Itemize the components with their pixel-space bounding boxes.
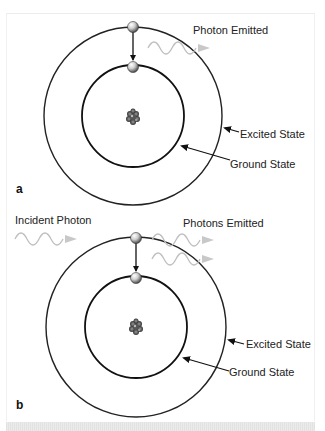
ground-pointer-arrow xyxy=(184,358,229,371)
electron-icon xyxy=(128,62,139,73)
nucleus-icon xyxy=(126,109,140,126)
photon-wave-icon xyxy=(148,42,210,54)
emitted-photon-wave-icon xyxy=(152,253,214,265)
electron-icon xyxy=(131,233,142,244)
panel-letter-b: b xyxy=(16,399,23,411)
incident-photon-label: Incident Photon xyxy=(15,214,91,226)
electron-icon xyxy=(131,273,142,284)
excited-pointer-arrow xyxy=(229,340,244,344)
panel-letter-a: a xyxy=(16,183,23,195)
ground-pointer-arrow xyxy=(182,146,230,160)
panel-b xyxy=(15,233,244,418)
photons-emitted-label: Photons Emitted xyxy=(183,217,264,229)
ground-state-label: Ground State xyxy=(230,158,295,170)
nucleus-icon xyxy=(129,319,143,336)
excited-pointer-arrow xyxy=(225,128,239,132)
excited-state-label: Excited State xyxy=(240,128,305,140)
photon-emitted-label: Photon Emitted xyxy=(193,24,268,36)
excited-state-label: Excited State xyxy=(246,338,311,350)
panel-a xyxy=(44,22,239,206)
electron-icon xyxy=(128,22,139,33)
incident-photon-wave-icon xyxy=(15,233,77,245)
ground-state-label: Ground State xyxy=(229,366,294,378)
